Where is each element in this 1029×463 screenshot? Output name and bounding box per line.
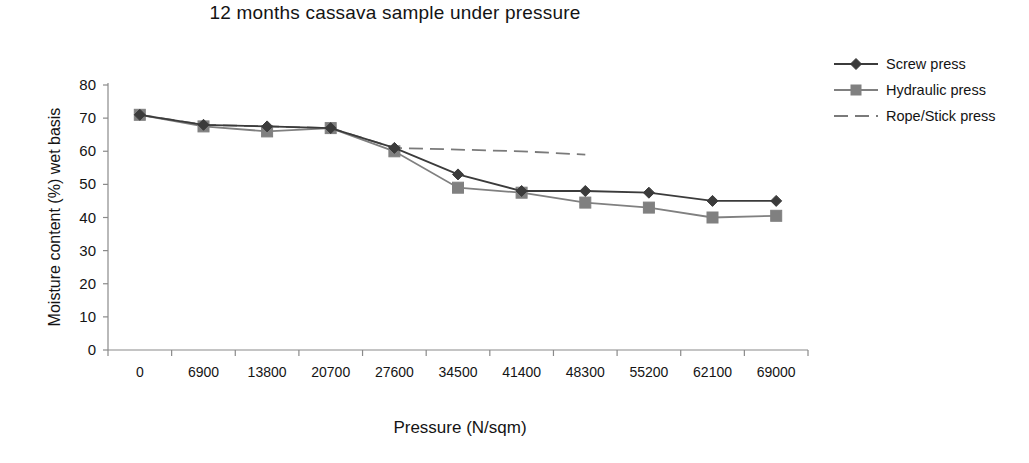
data-point-diamond xyxy=(580,186,591,197)
chart-container: 12 months cassava sample under pressure … xyxy=(0,0,1029,463)
y-tick-label: 30 xyxy=(62,243,96,258)
data-point-diamond xyxy=(643,187,654,198)
data-point-square xyxy=(771,210,782,221)
y-tick-label: 60 xyxy=(62,143,96,158)
y-tick-label: 10 xyxy=(62,309,96,324)
y-tick-label: 50 xyxy=(62,176,96,191)
y-tick-label: 0 xyxy=(62,342,96,357)
legend-label: Hydraulic press xyxy=(886,82,986,98)
legend-label: Rope/Stick press xyxy=(886,108,996,124)
y-tick-label: 20 xyxy=(62,276,96,291)
legend-marker-icon xyxy=(832,82,880,98)
y-tick-label: 80 xyxy=(62,77,96,92)
data-point-square xyxy=(707,212,718,223)
chart-legend: Screw pressHydraulic pressRope/Stick pre… xyxy=(832,52,1022,130)
data-point-square xyxy=(643,202,654,213)
legend-item-2[interactable]: Rope/Stick press xyxy=(832,104,1022,128)
series-line-1 xyxy=(140,115,776,218)
legend-marker-icon xyxy=(832,56,880,72)
data-point-square xyxy=(580,197,591,208)
x-tick-label: 69000 xyxy=(736,365,816,379)
y-tick-label: 40 xyxy=(62,210,96,225)
data-point-square xyxy=(453,182,464,193)
legend-marker-icon xyxy=(832,108,880,124)
legend-label: Screw press xyxy=(886,56,966,72)
data-point-diamond xyxy=(771,195,782,206)
y-tick-label: 70 xyxy=(62,110,96,125)
legend-item-1[interactable]: Hydraulic press xyxy=(832,78,1022,102)
data-point-diamond xyxy=(453,169,464,180)
data-point-diamond xyxy=(707,195,718,206)
legend-item-0[interactable]: Screw press xyxy=(832,52,1022,76)
